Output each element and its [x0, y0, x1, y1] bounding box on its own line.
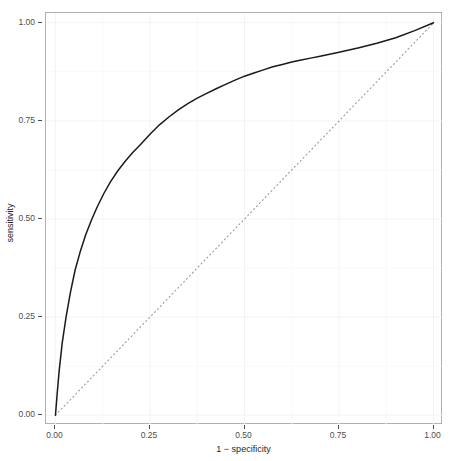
x-tick-mark [149, 425, 150, 429]
x-tick-mark [54, 425, 55, 429]
x-tick-label: 0.75 [330, 430, 347, 440]
x-axis: 0.000.250.500.751.00 [0, 0, 454, 461]
x-tick-mark [433, 425, 434, 429]
x-tick-label: 0.50 [235, 430, 252, 440]
x-axis-title: 1 − specificity [45, 444, 442, 454]
x-tick-mark [338, 425, 339, 429]
roc-plot-figure: 0.000.250.500.751.00 sensitivity 0.000.2… [0, 0, 454, 461]
x-tick-label: 0.00 [46, 430, 63, 440]
x-tick-mark [244, 425, 245, 429]
x-tick-label: 0.25 [141, 430, 158, 440]
x-tick-label: 1.00 [424, 430, 441, 440]
